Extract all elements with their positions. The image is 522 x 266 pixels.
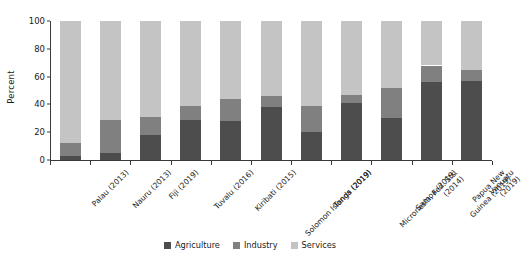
bar-segment-services[interactable] <box>180 21 201 106</box>
bar-segment-services[interactable] <box>60 21 81 143</box>
y-axis-label: Percent <box>6 52 16 122</box>
bar-column[interactable] <box>100 21 121 160</box>
bar-segment-industry[interactable] <box>100 120 121 153</box>
x-tick-mark <box>291 161 292 165</box>
bar-segment-industry[interactable] <box>60 143 81 156</box>
x-tick-mark <box>412 161 413 165</box>
bar-column[interactable] <box>301 21 322 160</box>
legend-swatch-icon <box>233 242 240 249</box>
bar-segment-agriculture[interactable] <box>261 107 282 160</box>
x-tick-mark <box>331 161 332 165</box>
y-tick-label: 40 <box>34 99 45 109</box>
legend-item[interactable]: Industry <box>233 240 278 250</box>
legend-swatch-icon <box>164 242 171 249</box>
bar-segment-industry[interactable] <box>381 88 402 119</box>
legend-item[interactable]: Services <box>291 240 337 250</box>
x-category-label: Palau (2013) <box>90 168 131 209</box>
bar-column[interactable] <box>421 21 442 160</box>
bar-segment-agriculture[interactable] <box>461 81 482 160</box>
bar-segment-agriculture[interactable] <box>100 153 121 160</box>
bar-segment-agriculture[interactable] <box>140 135 161 160</box>
bar-column[interactable] <box>261 21 282 160</box>
legend-label: Industry <box>244 240 278 250</box>
bar-segment-agriculture[interactable] <box>341 103 362 160</box>
legend-item[interactable]: Agriculture <box>164 240 220 250</box>
bar-segment-services[interactable] <box>100 21 121 120</box>
x-category-label: Kiribati (2015) <box>253 168 298 213</box>
x-tick-mark <box>492 161 493 165</box>
y-tick-label: 20 <box>34 127 45 137</box>
legend-label: Services <box>302 240 337 250</box>
bar-segment-industry[interactable] <box>261 96 282 107</box>
bar-segment-services[interactable] <box>301 21 322 106</box>
x-category-label: Micronesia, Fed. Sts. (2014) <box>385 168 466 249</box>
bar-column[interactable] <box>381 21 402 160</box>
x-axis-line <box>50 160 492 161</box>
bar-segment-agriculture[interactable] <box>60 156 81 160</box>
bar-segment-industry[interactable] <box>341 95 362 103</box>
x-tick-mark <box>90 161 91 165</box>
bar-segment-agriculture[interactable] <box>381 118 402 160</box>
bar-column[interactable] <box>341 21 362 160</box>
y-tick-label: 0 <box>40 155 45 165</box>
x-tick-mark <box>171 161 172 165</box>
bar-segment-services[interactable] <box>421 21 442 65</box>
bar-segment-agriculture[interactable] <box>301 132 322 160</box>
x-tick-mark <box>50 161 51 165</box>
y-tick-label: 100 <box>29 16 45 26</box>
x-tick-mark <box>251 161 252 165</box>
bar-segment-agriculture[interactable] <box>180 120 201 160</box>
y-tick-label: 60 <box>34 72 45 82</box>
x-tick-mark <box>371 161 372 165</box>
bar-segment-services[interactable] <box>261 21 282 96</box>
x-tick-mark <box>130 161 131 165</box>
x-category-label: Nauru (2013) <box>131 168 173 210</box>
plot-area: 020406080100 <box>50 21 492 160</box>
bar-column[interactable] <box>180 21 201 160</box>
bar-segment-services[interactable] <box>140 21 161 117</box>
x-tick-mark <box>211 161 212 165</box>
legend-swatch-icon <box>291 242 298 249</box>
bar-segment-industry[interactable] <box>220 99 241 121</box>
bar-segment-agriculture[interactable] <box>421 82 442 160</box>
legend-label: Agriculture <box>175 240 220 250</box>
bar-segment-services[interactable] <box>461 21 482 70</box>
bar-segment-services[interactable] <box>220 21 241 99</box>
x-tick-mark <box>452 161 453 165</box>
bar-segment-services[interactable] <box>381 21 402 88</box>
y-tick-label: 80 <box>34 44 45 54</box>
bar-segment-industry[interactable] <box>461 70 482 81</box>
bar-segment-services[interactable] <box>341 21 362 95</box>
bar-segment-industry[interactable] <box>421 66 442 83</box>
bar-column[interactable] <box>220 21 241 160</box>
bar-column[interactable] <box>60 21 81 160</box>
x-category-label: Tuvalu (2016) <box>212 168 255 211</box>
bar-column[interactable] <box>140 21 161 160</box>
bar-segment-agriculture[interactable] <box>220 121 241 160</box>
bar-column[interactable] <box>461 21 482 160</box>
bar-segment-industry[interactable] <box>180 106 201 120</box>
x-category-label: Tonga (2019) <box>332 168 374 210</box>
bar-segment-industry[interactable] <box>301 106 322 132</box>
bars-container <box>50 21 492 160</box>
bar-segment-industry[interactable] <box>140 117 161 135</box>
chart-legend: AgricultureIndustryServices <box>0 240 500 250</box>
